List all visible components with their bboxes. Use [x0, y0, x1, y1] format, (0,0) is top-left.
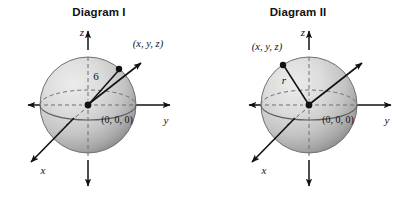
figure-root: Diagram I [0, 0, 397, 197]
y-axis-label: y [384, 114, 390, 126]
z-axis-label: z [79, 26, 85, 38]
diagram-2-graphic: z y x r (x, y, z) (0, 0, 0) [199, 0, 397, 197]
diagram-panel-1: Diagram I [0, 0, 198, 197]
x-axis-label: x [261, 164, 267, 176]
point-dot [280, 62, 286, 68]
radius-length-label: r [282, 74, 287, 86]
origin-dot [306, 102, 313, 109]
point-coordinate-label: (x, y, z) [252, 41, 283, 53]
point-dot [116, 66, 122, 72]
z-axis-label: z [300, 26, 306, 38]
radius-length-label: 6 [93, 70, 99, 82]
x-axis-label: x [40, 164, 46, 176]
diagram-panel-2: Diagram II [199, 0, 397, 197]
origin-coordinate-label: (0, 0, 0) [101, 114, 133, 126]
origin-dot [85, 102, 92, 109]
diagram-1-graphic: z y x 6 (x, y, z) (0, 0, 0) [0, 0, 198, 197]
y-axis-label: y [163, 114, 169, 126]
point-coordinate-label: (x, y, z) [133, 38, 164, 50]
origin-coordinate-label: (0, 0, 0) [322, 114, 354, 126]
